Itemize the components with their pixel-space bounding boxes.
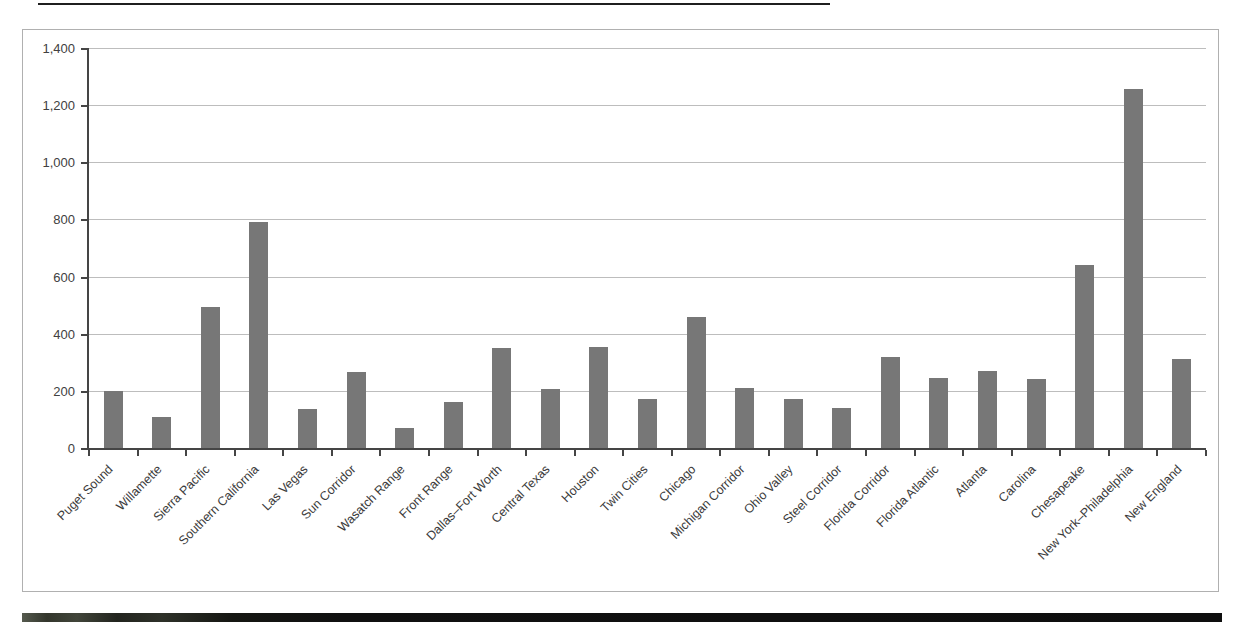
gridline xyxy=(89,48,1206,49)
x-axis-tick xyxy=(962,450,964,456)
y-axis-tick xyxy=(81,277,87,279)
y-axis-tick xyxy=(81,48,87,50)
x-axis-tick xyxy=(574,450,576,456)
y-axis-tick xyxy=(81,334,87,336)
y-tick-label: 400 xyxy=(29,328,75,342)
x-axis-tick xyxy=(768,450,770,456)
y-axis-tick xyxy=(81,105,87,107)
bar-sierra-pacific xyxy=(201,307,220,448)
y-tick-label: 1,200 xyxy=(29,99,75,113)
x-axis-tick xyxy=(1011,450,1013,456)
y-axis-tick xyxy=(81,391,87,393)
x-axis xyxy=(87,448,1206,450)
x-axis-tick xyxy=(234,450,236,456)
bar-puget-sound xyxy=(104,391,123,448)
y-tick-label: 1,400 xyxy=(29,42,75,56)
x-axis-tick xyxy=(379,450,381,456)
chart-frame: 02004006008001,0001,2001,400Puget SoundW… xyxy=(22,29,1219,592)
x-axis-tick xyxy=(137,450,139,456)
x-axis-tick xyxy=(88,450,90,456)
bar-chesapeake xyxy=(1075,265,1094,448)
bar-carolina xyxy=(1027,379,1046,448)
bar-steel-corridor xyxy=(832,408,851,448)
x-axis-tick xyxy=(671,450,673,456)
bar-florida-corridor xyxy=(881,357,900,448)
bar-wasatch-range xyxy=(395,428,414,448)
bar-front-range xyxy=(444,402,463,448)
gridline xyxy=(89,105,1206,106)
bar-florida-atlantic xyxy=(929,378,948,448)
bar-willamette xyxy=(152,417,171,448)
x-axis-tick xyxy=(477,450,479,456)
x-axis-tick xyxy=(1108,450,1110,456)
top-rule xyxy=(38,3,830,5)
bar-twin-cities xyxy=(638,399,657,448)
x-axis-tick xyxy=(816,450,818,456)
bar-michigan-corridor xyxy=(735,388,754,448)
x-axis-tick xyxy=(428,450,430,456)
x-axis-tick xyxy=(1205,450,1207,456)
y-tick-label: 1,000 xyxy=(29,156,75,170)
x-axis-tick xyxy=(1156,450,1158,456)
y-axis-tick xyxy=(81,448,87,450)
x-axis-tick xyxy=(719,450,721,456)
bar-ohio-valley xyxy=(784,399,803,448)
y-tick-label: 600 xyxy=(29,271,75,285)
x-axis-tick xyxy=(185,450,187,456)
bar-sun-corridor xyxy=(347,372,366,448)
x-axis-tick xyxy=(622,450,624,456)
bar-chicago xyxy=(687,317,706,448)
bar-houston xyxy=(589,347,608,448)
bottom-black-band xyxy=(22,613,1222,622)
bar-new-york-philadelphia xyxy=(1124,89,1143,448)
bar-southern-california xyxy=(249,222,268,448)
gridline xyxy=(89,219,1206,220)
y-axis-tick xyxy=(81,162,87,164)
bar-atlanta xyxy=(978,371,997,448)
y-axis xyxy=(87,48,89,450)
y-tick-label: 0 xyxy=(29,442,75,456)
bar-central-texas xyxy=(541,389,560,448)
x-axis-tick xyxy=(914,450,916,456)
x-axis-tick xyxy=(282,450,284,456)
x-axis-tick xyxy=(865,450,867,456)
y-tick-label: 800 xyxy=(29,213,75,227)
x-axis-tick xyxy=(1059,450,1061,456)
x-axis-tick xyxy=(525,450,527,456)
x-axis-tick xyxy=(331,450,333,456)
bar-las-vegas xyxy=(298,409,317,448)
y-tick-label: 200 xyxy=(29,385,75,399)
bar-dallas-fort-worth xyxy=(492,348,511,448)
bar-new-england xyxy=(1172,359,1191,448)
gridline xyxy=(89,162,1206,163)
plot-area xyxy=(89,48,1206,448)
y-axis-tick xyxy=(81,219,87,221)
